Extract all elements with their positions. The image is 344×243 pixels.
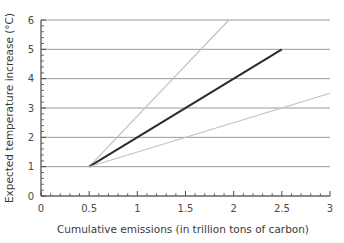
y-tick-label: 0 bbox=[28, 191, 34, 202]
x-tick-label: 0.5 bbox=[81, 203, 97, 214]
x-tick-label: 1.5 bbox=[178, 203, 194, 214]
series-lines bbox=[89, 20, 330, 167]
series-line-lower-bound bbox=[89, 93, 330, 166]
y-tick-label: 4 bbox=[28, 73, 34, 84]
y-tick-label: 3 bbox=[28, 103, 34, 114]
chart-figure: 00.511.522.53 0123456 Cumulative emissio… bbox=[0, 0, 344, 243]
y-axis-tick-labels: 0123456 bbox=[28, 15, 34, 202]
x-axis-tick-labels: 00.511.522.53 bbox=[38, 203, 333, 214]
y-tick-label: 5 bbox=[28, 44, 34, 55]
y-axis-title: Expected temperature increase (°C) bbox=[3, 13, 15, 203]
line-chart-plot: 00.511.522.53 0123456 Cumulative emissio… bbox=[0, 0, 344, 243]
y-tick-label: 6 bbox=[28, 15, 34, 26]
y-tick-label: 1 bbox=[28, 161, 34, 172]
x-tick-label: 2.5 bbox=[274, 203, 290, 214]
y-tick-label: 2 bbox=[28, 132, 34, 143]
x-tick-label: 3 bbox=[327, 203, 333, 214]
x-tick-label: 1 bbox=[134, 203, 140, 214]
x-tick-label: 2 bbox=[230, 203, 236, 214]
x-axis-title: Cumulative emissions (in trillion tons o… bbox=[57, 223, 309, 235]
x-tick-label: 0 bbox=[38, 203, 44, 214]
